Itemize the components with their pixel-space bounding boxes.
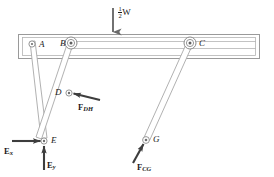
joint-label-G: G	[153, 135, 160, 144]
joint-label-B: B	[60, 39, 66, 48]
force-label-F-DH: FDH	[78, 103, 93, 113]
free-body-diagram: 1 2 W A B C D E G FDH Ex Ey FCG	[0, 0, 274, 177]
force-label-E-x: Ex	[4, 147, 13, 157]
joint-G	[143, 137, 150, 144]
joint-E	[41, 138, 47, 144]
force-arrow-F-DH	[74, 94, 101, 101]
joint-C	[184, 37, 196, 49]
load-symbol: W	[122, 7, 131, 17]
force-label-E-y-subscript: y	[53, 163, 56, 170]
beam-inner-outline	[23, 38, 256, 56]
force-arrows-group	[12, 8, 144, 170]
force-label-E-x-subscript: x	[10, 149, 13, 156]
diagram-canvas	[0, 0, 274, 177]
force-label-F-CG-subscript: CG	[142, 165, 151, 172]
joint-label-A: A	[39, 40, 45, 49]
joint-label-D: D	[55, 88, 62, 97]
load-fraction-denominator: 2	[118, 13, 122, 20]
load-fraction: 1 2	[118, 6, 122, 21]
force-label-F-CG: FCG	[137, 163, 151, 173]
beam-group	[19, 35, 260, 59]
force-label-F-DH-subscript: DH	[83, 105, 93, 112]
joint-B	[65, 37, 77, 49]
joint-D	[66, 90, 72, 96]
force-arrow-F-CG	[133, 144, 144, 163]
joint-label-C: C	[199, 39, 205, 48]
joint-label-E: E	[51, 136, 57, 145]
force-label-E-y: Ey	[47, 161, 56, 171]
joint-A	[29, 41, 35, 47]
load-label-half-W: 1 2 W	[118, 6, 131, 21]
